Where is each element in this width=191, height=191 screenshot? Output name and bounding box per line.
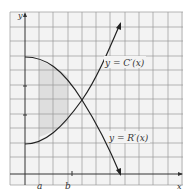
curve-r-label: y = R′(x) — [108, 133, 149, 143]
curve-c-label: y = C′(x) — [104, 58, 145, 68]
tick-label-a: a — [37, 181, 42, 191]
y-axis-label: y — [17, 11, 23, 20]
x-axis-label: x — [177, 182, 182, 191]
tick-label-b: b — [65, 181, 71, 191]
chart: y x a b y = C′(x) y = R′(x) — [0, 0, 191, 191]
